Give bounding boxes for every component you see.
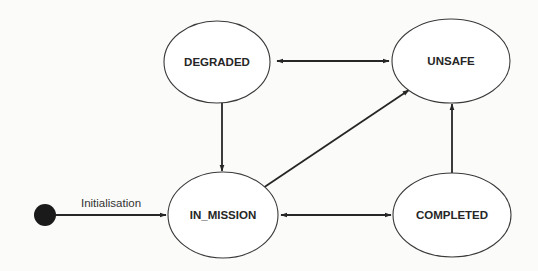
state-degraded: DEGRADED bbox=[164, 21, 270, 103]
initial-state-node bbox=[34, 204, 56, 226]
state-in-mission: IN_MISSION bbox=[168, 172, 278, 258]
state-completed: COMPLETED bbox=[393, 173, 511, 257]
state-degraded-label: DEGRADED bbox=[184, 56, 250, 68]
transition-in-mission-unsafe bbox=[263, 90, 409, 188]
state-completed-label: COMPLETED bbox=[416, 209, 488, 221]
state-diagram: Initialisation DEGRADED UNSAFE IN_MISSIO… bbox=[0, 0, 538, 271]
state-unsafe-label: UNSAFE bbox=[427, 55, 475, 67]
state-unsafe: UNSAFE bbox=[392, 19, 510, 103]
state-in-mission-label: IN_MISSION bbox=[190, 209, 256, 221]
initialisation-label: Initialisation bbox=[81, 197, 141, 209]
diagram-svg: Initialisation DEGRADED UNSAFE IN_MISSIO… bbox=[0, 0, 538, 271]
